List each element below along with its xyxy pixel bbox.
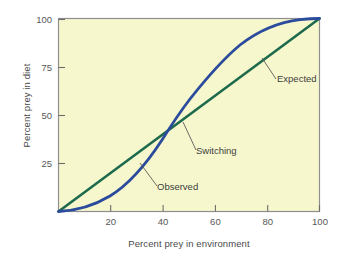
switching-prey-chart: 100 75 50 25 20 40 60 80 100 Percent pre… <box>0 0 347 261</box>
x-tick-label-40: 40 <box>143 216 183 227</box>
annotation-observed: Observed <box>157 181 198 192</box>
x-tick-label-100: 100 <box>300 216 340 227</box>
x-tick-label-60: 60 <box>195 216 235 227</box>
x-tick-label-80: 80 <box>248 216 288 227</box>
y-axis-title: Percent prey in diet <box>21 31 32 181</box>
annotation-expected: Expected <box>277 73 317 84</box>
x-tick-label-20: 20 <box>91 216 131 227</box>
y-tick-label-100: 100 <box>22 14 52 25</box>
x-axis-title: Percent prey in environment <box>58 238 320 249</box>
annotation-switching: Switching <box>196 145 237 156</box>
